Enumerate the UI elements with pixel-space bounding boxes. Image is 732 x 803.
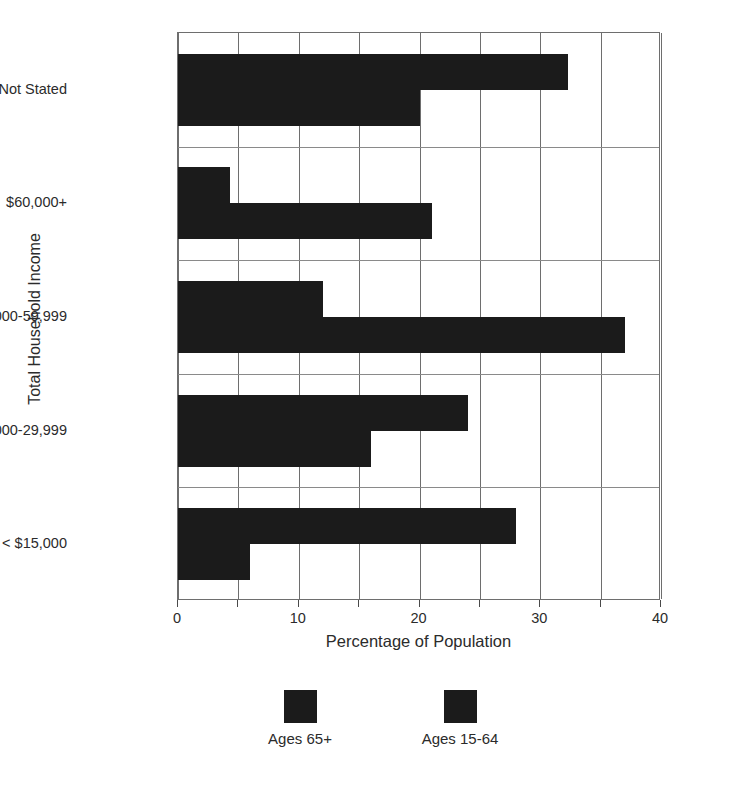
- bar: [178, 317, 625, 353]
- legend-entry: Ages 65+: [230, 690, 370, 747]
- vertical-gridline: [540, 33, 541, 599]
- legend-label: Ages 15-64: [390, 730, 530, 747]
- legend-swatch: [444, 690, 477, 723]
- x-tick-label: 40: [652, 610, 668, 626]
- x-tick: [660, 600, 661, 607]
- legend-swatch: [284, 690, 317, 723]
- y-category-label: $15,000-29,999: [0, 422, 67, 438]
- vertical-gridline: [661, 33, 662, 599]
- x-tick-label: 30: [531, 610, 547, 626]
- x-tick: [298, 600, 299, 607]
- bar: [178, 544, 250, 580]
- bar: [178, 203, 432, 239]
- x-tick-label: 20: [410, 610, 426, 626]
- bar: [178, 90, 420, 126]
- bar: [178, 281, 323, 317]
- x-tick: [600, 600, 601, 607]
- category-separator: [178, 147, 659, 148]
- category-separator: [178, 260, 659, 261]
- bar: [178, 54, 568, 90]
- bar: [178, 431, 371, 467]
- bar: [178, 167, 230, 203]
- chart-legend: Ages 65+Ages 15-64: [0, 690, 732, 780]
- y-category-label: $30,000-59,999: [0, 308, 67, 324]
- category-separator: [178, 487, 659, 488]
- y-category-label: $60,000+: [6, 194, 67, 210]
- plot-area: [177, 32, 660, 600]
- bar: [178, 508, 516, 544]
- category-separator: [178, 374, 659, 375]
- x-tick-label: 10: [290, 610, 306, 626]
- chart-title: [0, 0, 732, 14]
- x-axis-title: Percentage of Population: [177, 632, 660, 651]
- x-tick: [539, 600, 540, 607]
- x-tick: [358, 600, 359, 607]
- y-category-label: < $15,000: [2, 535, 67, 551]
- bar: [178, 395, 468, 431]
- bar-chart: Total Household Income 010203040 Percent…: [0, 0, 732, 803]
- legend-label: Ages 65+: [230, 730, 370, 747]
- y-category-label: Not Stated: [0, 81, 67, 97]
- x-tick-label: 0: [173, 610, 181, 626]
- x-tick: [237, 600, 238, 607]
- vertical-gridline: [601, 33, 602, 599]
- x-tick: [177, 600, 178, 607]
- x-tick: [479, 600, 480, 607]
- legend-entry: Ages 15-64: [390, 690, 530, 747]
- x-tick: [419, 600, 420, 607]
